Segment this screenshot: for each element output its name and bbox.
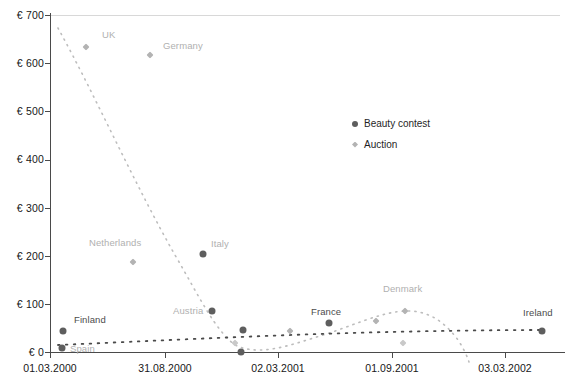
data-point-beauty-finland bbox=[60, 328, 67, 335]
data-point-auction-6 bbox=[373, 318, 380, 325]
x-axis-label-0: 01.03.2000 bbox=[23, 362, 77, 374]
annotation-ireland: Ireland bbox=[523, 307, 553, 318]
y-axis-label-200: € 200 bbox=[0, 250, 44, 262]
annotation-austria: Austria bbox=[173, 305, 203, 316]
x-axis-label-2: 02.03.2001 bbox=[251, 362, 305, 374]
data-point-auction-denmark bbox=[402, 308, 409, 315]
data-point-auction-8 bbox=[400, 340, 407, 347]
scatter-chart: € 700 € 600 € 500 € 400 € 300 € 200 € 10… bbox=[0, 0, 565, 380]
annotation-spain: Spain bbox=[70, 343, 95, 354]
data-point-auction-uk bbox=[83, 44, 90, 51]
x-axis-label-1: 31.08.2000 bbox=[138, 362, 192, 374]
data-point-beauty-france bbox=[326, 320, 333, 327]
x-axis-label-4: 03.03.2002 bbox=[478, 362, 532, 374]
chart-legend: Beauty contest Auction bbox=[352, 116, 430, 158]
y-axis-label-300: € 300 bbox=[0, 202, 44, 214]
data-point-beauty-5 bbox=[240, 327, 247, 334]
x-axis-tick-4 bbox=[505, 353, 506, 358]
annotation-netherlands: Netherlands bbox=[89, 237, 141, 248]
data-point-beauty-italy bbox=[200, 251, 207, 258]
legend-label-auction: Auction bbox=[364, 139, 397, 150]
data-point-beauty-austria bbox=[209, 308, 216, 315]
legend-marker-circle-icon bbox=[352, 121, 358, 127]
data-point-auction-5 bbox=[287, 328, 294, 335]
beauty-contest-trendline bbox=[58, 330, 545, 345]
legend-item-beauty-contest: Beauty contest bbox=[352, 116, 430, 131]
annotation-denmark: Denmark bbox=[383, 283, 422, 294]
x-axis-tick-1 bbox=[165, 353, 166, 358]
data-point-beauty-6 bbox=[238, 349, 245, 356]
annotation-italy: Italy bbox=[211, 238, 229, 249]
y-axis-label-0: € 0 bbox=[0, 346, 44, 358]
y-axis-label-100: € 100 bbox=[0, 298, 44, 310]
plot-top-rule bbox=[50, 15, 560, 16]
legend-label-beauty-contest: Beauty contest bbox=[364, 118, 430, 129]
y-axis-label-400: € 400 bbox=[0, 153, 44, 165]
legend-marker-diamond-icon bbox=[352, 142, 358, 148]
x-axis-label-3: 01.09.2001 bbox=[365, 362, 419, 374]
data-point-beauty-ireland bbox=[539, 328, 546, 335]
y-axis-line bbox=[50, 13, 51, 353]
annotation-finland: Finland bbox=[74, 314, 106, 325]
x-axis-tick-2 bbox=[278, 353, 279, 358]
y-axis-label-600: € 600 bbox=[0, 57, 44, 69]
x-axis-tick-0 bbox=[50, 353, 51, 358]
x-axis-line bbox=[50, 352, 565, 353]
y-axis-label-500: € 500 bbox=[0, 105, 44, 117]
data-point-auction-4 bbox=[232, 340, 239, 347]
data-point-auction-netherlands bbox=[130, 259, 137, 266]
annotation-uk: UK bbox=[102, 29, 115, 40]
annotation-germany: Germany bbox=[163, 40, 203, 51]
data-point-auction-germany bbox=[147, 52, 154, 59]
legend-item-auction: Auction bbox=[352, 137, 430, 152]
data-point-beauty-spain bbox=[59, 345, 66, 352]
x-axis-tick-3 bbox=[392, 353, 393, 358]
y-axis-label-700: € 700 bbox=[0, 9, 44, 21]
annotation-france: France bbox=[311, 306, 341, 317]
